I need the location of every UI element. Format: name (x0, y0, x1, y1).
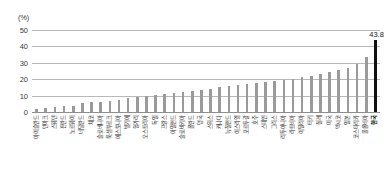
category-slot: 덴마크 (41, 114, 50, 178)
bar-slot (78, 30, 87, 112)
bar-slot (197, 30, 206, 112)
x-axis-tick-label: 터키 (309, 115, 314, 125)
category-slot: 영국 (197, 114, 206, 178)
bar (310, 76, 313, 112)
x-axis-tick-label: 칠레 (318, 115, 323, 125)
bar-slot (169, 30, 178, 112)
x-axis-tick-label: 호주 (254, 115, 259, 125)
x-axis-tick-label: 벨기에 (125, 115, 130, 129)
bar-slot (188, 30, 197, 112)
x-axis-tick-label: 룩셈부르크 (107, 115, 112, 139)
bar (54, 107, 57, 112)
bar (145, 96, 148, 112)
bar-slot (233, 30, 242, 112)
category-slot: 코스타리카 (352, 114, 361, 178)
bar (163, 94, 166, 112)
bar-slot (32, 30, 41, 112)
y-axis-tick: 10 (2, 91, 28, 100)
category-slot: 에스토니아 (114, 114, 123, 178)
category-slot: 일본 (343, 114, 352, 178)
bar-slot (114, 30, 123, 112)
x-axis-tick-label: 덴마크 (43, 115, 48, 129)
bar-slot (352, 30, 361, 112)
axis-baseline (32, 112, 380, 113)
bar-slot (224, 30, 233, 112)
category-slot: 오스트리아 (142, 114, 151, 178)
category-slot: 뉴질랜드 (224, 114, 233, 178)
x-axis-tick-label: 핀란드 (61, 115, 66, 129)
category-slot: 미국 (325, 114, 334, 178)
bar-slot (41, 30, 50, 112)
x-axis-tick-label: 캐나다 (217, 115, 222, 129)
bar-slot: 43.8 (371, 30, 380, 112)
category-slot: 프랑스 (160, 114, 169, 178)
bar-slot (124, 30, 133, 112)
bar (301, 77, 304, 112)
category-slot: 칠레 (316, 114, 325, 178)
bar-highlighted (374, 40, 377, 112)
x-axis-tick-label: 그리스 (272, 115, 277, 129)
category-slot: 네덜란드 (78, 114, 87, 178)
x-axis-tick-label: 프랑스 (162, 115, 167, 129)
category-slot: 스페인 (261, 114, 270, 178)
x-axis-tick-label: 포르투갈 (244, 115, 249, 134)
category-slot: 스웨덴 (50, 114, 59, 178)
bar-slot (334, 30, 343, 112)
bar (337, 70, 340, 112)
x-axis-tick-label: 코스타리카 (354, 115, 359, 139)
category-slot: 이탈리아 (298, 114, 307, 178)
bar (136, 97, 139, 112)
bar (273, 81, 276, 112)
x-axis-tick-label: 이탈리아 (299, 115, 304, 134)
x-axis-tick-label: 일본 (345, 115, 350, 125)
bar (264, 82, 267, 112)
bar (182, 92, 185, 112)
bar (347, 68, 350, 112)
bar (200, 90, 203, 112)
category-slot: 라트비아 (288, 114, 297, 178)
y-axis-tick-labels: 01020304050 (0, 30, 28, 112)
x-axis-tick-label: 리투아니아 (281, 115, 286, 139)
bar (173, 93, 176, 112)
x-axis-tick-label: 폴란드 (190, 115, 195, 129)
bar (44, 108, 47, 112)
bar (283, 80, 286, 112)
x-axis-tick-label: 체코 (89, 115, 94, 125)
bar (218, 87, 221, 112)
x-axis-tick-label: 한국 (373, 115, 378, 125)
bar (90, 102, 93, 112)
bar (255, 83, 258, 112)
x-axis-tick-label: 영국 (199, 115, 204, 125)
x-axis-tick-label: 스위스 (208, 115, 213, 129)
category-slot: 그리스 (270, 114, 279, 178)
category-slot: 한국 (371, 114, 380, 178)
bar (81, 103, 84, 112)
category-slot: 터키 (307, 114, 316, 178)
y-axis-tick: 20 (2, 75, 28, 84)
category-slot: 독일 (151, 114, 160, 178)
category-slot: 멕시코 (334, 114, 343, 178)
category-slot: 포르투갈 (243, 114, 252, 178)
bar (365, 57, 368, 112)
x-axis-tick-label: 라트비아 (290, 115, 295, 134)
category-slot: 호주 (252, 114, 261, 178)
x-axis-tick-label: 슬로베니아 (98, 115, 103, 139)
category-slot: 룩셈부르크 (105, 114, 114, 178)
bar (319, 74, 322, 112)
bar-slot (279, 30, 288, 112)
bar-slot (252, 30, 261, 112)
bar-slot (105, 30, 114, 112)
x-axis-tick-label: 이스라엘 (235, 115, 240, 134)
bar-slot (179, 30, 188, 112)
y-axis-tick: 30 (2, 58, 28, 67)
bar (191, 91, 194, 112)
y-axis-tick: 40 (2, 42, 28, 51)
bar-slot (270, 30, 279, 112)
bar-series: 43.8 (32, 30, 380, 112)
x-axis-tick-label: 독일 (153, 115, 158, 125)
category-slot: 스위스 (206, 114, 215, 178)
category-slot: 핀란드 (59, 114, 68, 178)
x-axis-tick-label: 헝가리 (135, 115, 140, 129)
category-slot: 아이슬란드 (32, 114, 41, 178)
category-slot: 리투아니아 (279, 114, 288, 178)
